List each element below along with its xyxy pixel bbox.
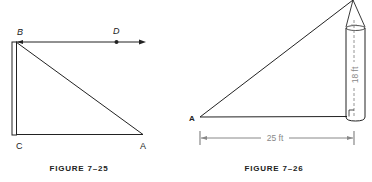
- cone-right-edge: [353, 0, 365, 27]
- right-angle-mark-icon: [349, 110, 354, 117]
- dimension-arrow-right-icon: [347, 136, 353, 140]
- figure-7-25: B D C A FIGURE 7–25: [12, 26, 146, 173]
- pole-bc: [12, 42, 17, 135]
- figure-caption-7-26: FIGURE 7–26: [244, 164, 303, 173]
- figure-caption-7-25: FIGURE 7–25: [49, 164, 108, 173]
- label-c: C: [16, 141, 23, 151]
- line-of-sight: [200, 0, 353, 117]
- segment-ba: [16, 42, 143, 135]
- diagram-canvas: B D C A FIGURE 7–25 18 ft 25 ft: [0, 0, 372, 182]
- cylinder-bottom-ellipse: [346, 117, 365, 121]
- figure-7-26: 18 ft 25 ft A FIGURE 7–26: [189, 0, 365, 173]
- base-dimension-label: 25 ft: [267, 133, 284, 143]
- cone-base-ellipse: [346, 26, 365, 31]
- label-b: B: [17, 27, 23, 37]
- segment-base: [200, 117, 347, 118]
- label-d: D: [113, 26, 120, 36]
- height-dimension-label: 18 ft: [350, 66, 360, 83]
- label-a: A: [140, 141, 146, 151]
- dimension-arrow-left-icon: [201, 136, 207, 140]
- arrowhead-right-icon: [139, 40, 146, 45]
- point-d: [115, 40, 119, 44]
- label-a: A: [189, 114, 195, 123]
